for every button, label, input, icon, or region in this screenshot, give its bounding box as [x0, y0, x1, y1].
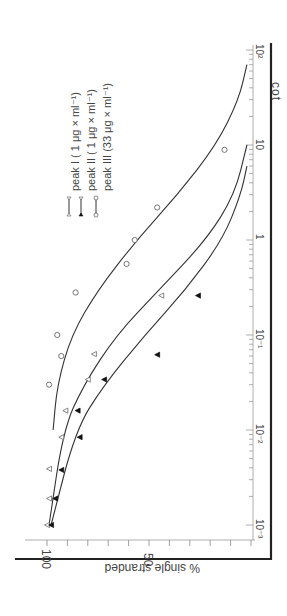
- open-triangle-marker: [63, 408, 68, 413]
- legend-label: peak II ( 1 μg × ml⁻¹): [85, 89, 97, 191]
- legend-item-peak-3: peak III (33 μg × ml⁻¹): [101, 83, 114, 191]
- open-triangle-icon: [67, 213, 71, 216]
- open-circle-marker: [132, 237, 137, 242]
- x-tick-label: 1: [254, 234, 265, 240]
- open-triangle-marker: [85, 377, 90, 382]
- open-circle-marker: [59, 353, 64, 358]
- filled-triangle-marker: [155, 352, 160, 357]
- x-axis-title: cot: [269, 82, 283, 101]
- x-tick-label: 10⁻¹: [254, 329, 265, 349]
- open-circle-marker: [222, 147, 227, 152]
- legend-item-peak-2: peak II ( 1 μg × ml⁻¹): [85, 89, 98, 191]
- filled-triangle-marker: [102, 377, 107, 382]
- x-tick-label: 10⁻²: [254, 424, 265, 444]
- open-triangle-marker: [159, 293, 164, 298]
- open-triangle-icon: [67, 197, 71, 200]
- x-tick-label: 10⁻³: [254, 519, 265, 539]
- open-circle-icon: [94, 213, 98, 217]
- open-circle-marker: [46, 382, 51, 387]
- open-circle-icon: [94, 196, 98, 200]
- curve-series-2: [51, 166, 247, 525]
- filled-triangle-icon: [79, 213, 83, 216]
- open-triangle-marker: [47, 466, 52, 471]
- plot-area: 10⁻³10⁻²10⁻¹11010²: [0, 0, 287, 616]
- filled-triangle-marker: [59, 467, 64, 472]
- y-tick-50: 50: [141, 553, 155, 566]
- legend-label: peak I ( 1 μg × ml⁻¹): [69, 92, 81, 191]
- filled-triangle-marker: [77, 435, 82, 440]
- open-triangle-marker: [47, 496, 52, 501]
- x-tick-label: 10²: [254, 44, 265, 59]
- open-triangle-marker: [91, 351, 96, 356]
- y-tick-100: 100: [39, 549, 53, 569]
- open-circle-marker: [55, 332, 60, 337]
- curve-series-1: [49, 145, 247, 525]
- open-circle-marker: [124, 261, 129, 266]
- curve-series-3: [53, 65, 247, 430]
- chart: 10⁻³10⁻²10⁻¹11010² peak I ( 1 μg × ml⁻¹)…: [0, 0, 287, 616]
- filled-triangle-marker: [75, 408, 80, 413]
- open-triangle-icon: [79, 197, 83, 200]
- x-tick-label: 10: [254, 139, 265, 151]
- legend-label: peak III (33 μg × ml⁻¹): [101, 83, 113, 191]
- filled-triangle-marker: [195, 293, 200, 298]
- open-circle-marker: [155, 205, 160, 210]
- open-triangle-marker: [59, 435, 64, 440]
- legend-item-peak-1: peak I ( 1 μg × ml⁻¹): [69, 92, 82, 191]
- open-circle-marker: [73, 290, 78, 295]
